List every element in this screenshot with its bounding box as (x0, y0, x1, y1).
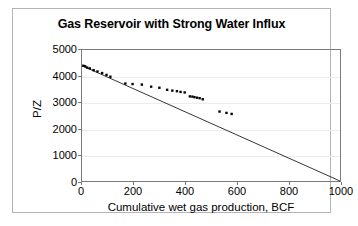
data-point (189, 95, 191, 97)
x-axis-tick: 800 (264, 186, 314, 197)
data-point (179, 91, 181, 93)
data-point (105, 74, 107, 76)
trend-line (82, 66, 340, 181)
data-point (198, 97, 200, 99)
data-point (230, 113, 232, 115)
x-axis-tickmark (133, 182, 134, 185)
data-point (101, 72, 103, 74)
data-point (141, 83, 143, 85)
plot-area (81, 49, 341, 182)
x-axis-tick: 400 (160, 186, 210, 197)
data-point (225, 112, 227, 114)
chart-title: Gas Reservoir with Strong Water Influx (13, 17, 330, 31)
y-axis-tick: 3000 (33, 97, 77, 108)
data-point (202, 98, 204, 100)
chart-card: Gas Reservoir with Strong Water Influx P… (12, 8, 331, 213)
x-axis-tickmark (81, 182, 82, 185)
data-point (176, 90, 178, 92)
y-axis-tick: 2000 (33, 124, 77, 135)
data-point (196, 97, 198, 99)
x-axis-tick: 200 (108, 186, 158, 197)
y-axis-tick: 4000 (33, 71, 77, 82)
x-axis-tick: 0 (56, 186, 106, 197)
data-point (109, 76, 111, 78)
x-axis-tickmark (289, 182, 290, 185)
y-axis-tick: 1000 (33, 150, 77, 161)
x-axis-tick: 600 (212, 186, 262, 197)
data-point (131, 83, 133, 85)
x-axis-tickmark (185, 182, 186, 185)
x-axis-tickmark (341, 182, 342, 185)
data-point (183, 91, 185, 93)
x-axis-tick: 1000 (316, 186, 358, 197)
data-point (191, 95, 193, 97)
data-point (150, 85, 152, 87)
data-point (193, 96, 195, 98)
data-point (218, 110, 220, 112)
data-point (171, 89, 173, 91)
x-axis-label: Cumulative wet gas production, BCF (61, 201, 341, 213)
x-axis-tickmark (237, 182, 238, 185)
data-layer (82, 50, 340, 181)
y-axis-tick: 5000 (33, 44, 77, 55)
data-point (166, 89, 168, 91)
data-point (158, 87, 160, 89)
